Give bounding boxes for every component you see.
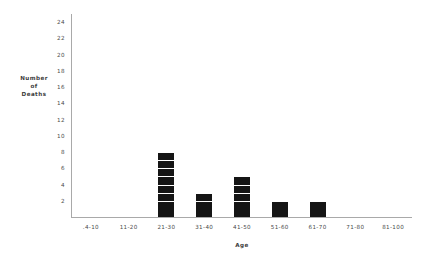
bar-unit-block [310, 209, 326, 217]
bar-unit-block [158, 209, 174, 217]
bar-unit-block [234, 185, 250, 193]
y-axis-tick-label: 4 [40, 182, 65, 188]
bar-unit-block [196, 201, 212, 209]
bar-unit-block [234, 193, 250, 201]
y-axis-tick-label: 6 [40, 165, 65, 171]
y-axis-tick-label: 14 [40, 100, 65, 106]
bar-unit-block [158, 201, 174, 209]
bar-unit-block [158, 160, 174, 168]
y-axis-tick-label: 12 [40, 117, 65, 123]
bar-unit-block [310, 201, 326, 209]
y-axis-tick-label: 8 [40, 149, 65, 155]
bar-unit-block [158, 176, 174, 184]
bar-slot [110, 14, 148, 217]
x-axis-tick-labels: .4-1011-2021-3031-4041-5051-6061-7071-80… [72, 224, 412, 236]
bar[interactable] [272, 201, 288, 217]
bar-slot [299, 14, 337, 217]
bar-unit-block [158, 168, 174, 176]
bar-unit-block [234, 176, 250, 184]
bar-unit-block [234, 201, 250, 209]
bar-slot [261, 14, 299, 217]
x-axis-line [71, 217, 412, 218]
bar[interactable] [310, 201, 326, 217]
bar-slot [185, 14, 223, 217]
bar-slot [336, 14, 374, 217]
bar-unit-block [272, 201, 288, 209]
bar-unit-block [196, 193, 212, 201]
bar[interactable] [234, 176, 250, 217]
y-axis-tick-label: 2 [40, 198, 65, 204]
plot-area [72, 14, 412, 217]
y-axis-tick-label: 18 [40, 68, 65, 74]
bar-slot [148, 14, 186, 217]
y-axis-tick-label: 24 [40, 19, 65, 25]
y-axis-tick-label: 10 [40, 133, 65, 139]
bar-slot [72, 14, 110, 217]
x-axis-tick-label: 81-100 [368, 224, 418, 230]
bar-unit-block [234, 209, 250, 217]
bar-unit-block [158, 152, 174, 160]
y-axis-tick-label: 16 [40, 84, 65, 90]
bar-unit-block [158, 185, 174, 193]
bar[interactable] [158, 152, 174, 217]
bar-unit-block [158, 193, 174, 201]
bar[interactable] [196, 193, 212, 217]
bar-slot [223, 14, 261, 217]
bar-unit-block [196, 209, 212, 217]
bar-slot [374, 14, 412, 217]
x-axis-title: Age [72, 242, 412, 248]
y-axis-tick-label: 20 [40, 52, 65, 58]
bar-unit-block [272, 209, 288, 217]
y-axis-tick-labels: 24222018161412108642 [40, 0, 65, 259]
histogram-chart: Number of Deaths 24222018161412108642 .4… [0, 0, 423, 259]
y-axis-tick-label: 22 [40, 35, 65, 41]
